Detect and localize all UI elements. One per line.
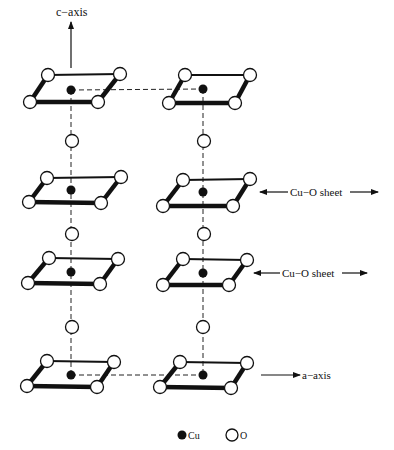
sheet-label-text: Cu−O sheet (282, 267, 334, 279)
cu-atom (199, 85, 208, 94)
o-atom (227, 200, 240, 213)
top-cu-cu-link (71, 89, 203, 90)
cu-o-sheet-label-1: Cu−O sheet (260, 186, 378, 198)
o-atom (42, 69, 55, 82)
cu-atom (199, 188, 208, 197)
plaquette-layer3-right (157, 253, 254, 292)
o-atom (223, 279, 236, 292)
o-atom (179, 69, 192, 82)
a-axis-indicator: a−axis (261, 369, 331, 381)
o-atom (241, 357, 254, 370)
plaquette-layer3-left (22, 252, 125, 291)
o-atom (43, 252, 56, 265)
plaquette-layer1-left (24, 68, 127, 109)
o-atom (21, 380, 34, 393)
plaquette-layer2-right (157, 173, 257, 213)
cu-legend-label: Cu (188, 430, 200, 441)
o-atom (41, 355, 54, 368)
o-atom (92, 96, 105, 109)
a-axis-label: a−axis (302, 369, 331, 381)
o-atom (108, 356, 121, 369)
apical-oxygens (66, 135, 211, 334)
cu-atom (199, 371, 208, 380)
plaquette-layer4-left (21, 355, 121, 394)
o-atom (244, 69, 257, 82)
o-atom (24, 96, 37, 109)
o-atom (157, 200, 170, 213)
cu-atom (67, 86, 76, 95)
o-atom (66, 228, 79, 241)
o-atom (177, 253, 190, 266)
o-atom (23, 196, 36, 209)
o-atom (177, 174, 190, 187)
o-atom (163, 97, 176, 110)
o-atom (41, 172, 54, 185)
plaquette-layer1-right (163, 69, 257, 110)
o-atom (157, 279, 170, 292)
cu-atom (67, 268, 76, 277)
o-atom (241, 254, 254, 267)
o-legend-label: O (240, 430, 247, 441)
sheet-label-text: Cu−O sheet (290, 186, 342, 198)
o-legend-swatch (226, 429, 238, 441)
o-atom (244, 173, 257, 186)
dashed-links (71, 89, 203, 375)
c-axis-label: c−axis (56, 5, 88, 19)
o-atom (91, 381, 104, 394)
o-atom (225, 382, 238, 395)
cu-o-sheet-label-2: Cu−O sheet (254, 267, 367, 279)
c-axis-indicator: c−axis (56, 5, 88, 68)
cu-legend-swatch (178, 431, 187, 440)
o-atom (115, 171, 128, 184)
o-atom (114, 68, 127, 81)
legend: Cu O (178, 429, 248, 441)
plaquette-layer2-left (23, 171, 128, 210)
o-atom (95, 197, 108, 210)
o-atom (94, 278, 107, 291)
o-atom (66, 135, 79, 148)
o-atom (112, 253, 125, 266)
o-atom (174, 356, 187, 369)
cu-atom (199, 269, 208, 278)
o-atom (66, 321, 79, 334)
cuprate-layered-structure-diagram: c−axis (0, 0, 394, 450)
o-atom (154, 381, 167, 394)
cu-atom (67, 371, 76, 380)
o-atom (229, 97, 242, 110)
cu-atom (67, 186, 76, 195)
o-atom (198, 228, 211, 241)
o-atom (198, 135, 211, 148)
o-atom (197, 321, 210, 334)
o-atom (22, 277, 35, 290)
